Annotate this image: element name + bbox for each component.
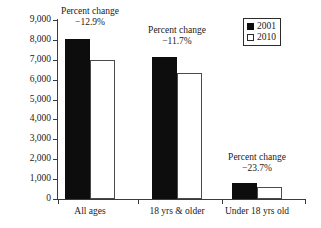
category-label-all-ages: All ages: [40, 206, 140, 216]
annotation-title-0: Percent change: [61, 6, 119, 16]
annotation-title-2: Percent change: [228, 152, 286, 162]
bar-2001-18-yrs-older: [152, 57, 177, 199]
legend: 2001 2010: [243, 18, 281, 46]
annotation-value-1: −11.7%: [131, 36, 223, 47]
annotation-value-2: −23.7%: [211, 163, 303, 174]
annotation-title-1: Percent change: [148, 25, 206, 35]
legend-label-2010: 2010: [257, 32, 276, 43]
legend-swatch-filled-square-icon: [247, 23, 254, 30]
legend-swatch-open-square-icon: [247, 34, 254, 41]
bar-2010-under-18-yrs-old: [257, 187, 282, 199]
bar-chart: 9,0008,0007,0006,0005,0004,0003,0002,000…: [0, 0, 321, 228]
bar-2010-18-yrs-older: [177, 73, 202, 199]
percent-change-annotation-0: Percent change−12.9%: [44, 6, 136, 28]
legend-label-2001: 2001: [257, 21, 276, 32]
percent-change-annotation-2: Percent change−23.7%: [211, 152, 303, 174]
legend-item-2010: 2010: [247, 32, 276, 43]
category-label-under-18-yrs-old: Under 18 yrs old: [207, 206, 307, 216]
bar-2001-under-18-yrs-old: [232, 183, 257, 199]
percent-change-annotation-1: Percent change−11.7%: [131, 25, 223, 47]
bar-2010-all-ages: [90, 60, 115, 199]
annotation-value-0: −12.9%: [44, 17, 136, 28]
legend-item-2001: 2001: [247, 21, 276, 32]
bar-2001-all-ages: [65, 39, 90, 199]
